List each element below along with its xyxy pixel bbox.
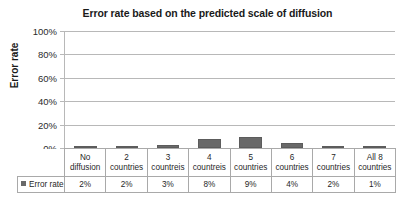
category-label-line: countries xyxy=(231,163,271,173)
table-header-cell: 6countries xyxy=(271,149,312,177)
table-row-categories: Nodiffusion2countries3countreis4countrei… xyxy=(18,149,396,177)
y-axis-tick xyxy=(60,125,64,126)
bars-layer xyxy=(65,31,395,148)
y-axis-tick xyxy=(60,101,64,102)
bar-slot xyxy=(230,31,271,148)
legend-swatch-icon xyxy=(21,181,26,186)
category-label-line: countries xyxy=(313,163,353,173)
page-title: Error rate based on the predicted scale … xyxy=(0,7,415,19)
y-axis-label: 80% xyxy=(38,49,57,60)
plot-area: 100%80%60%40%20%0% xyxy=(64,31,395,148)
y-axis-tick xyxy=(60,31,64,32)
table-header-cell: 2countries xyxy=(106,149,147,177)
table-value-cell: 4% xyxy=(271,177,312,193)
category-label-line: countreis xyxy=(148,163,188,173)
y-axis-tick xyxy=(60,54,64,55)
category-label-line: diffusion xyxy=(65,163,105,173)
bar xyxy=(239,137,261,148)
category-label-line: No xyxy=(65,153,105,163)
category-label-line: countreis xyxy=(189,163,229,173)
table-value-cell: 8% xyxy=(189,177,230,193)
bar xyxy=(198,139,220,148)
y-axis-label: 60% xyxy=(38,72,57,83)
category-label-line: 7 xyxy=(313,153,353,163)
table-header-cell: 4countreis xyxy=(189,149,230,177)
legend-entry: Error rate xyxy=(18,177,65,193)
table-row-values: Error rate 2%2%3%8%9%4%2%1% xyxy=(18,177,396,193)
bar-slot xyxy=(354,31,395,148)
y-axis-title: Error rate xyxy=(9,36,20,96)
category-label-line: 2 xyxy=(106,153,146,163)
bar-slot xyxy=(65,31,106,148)
bar-slot xyxy=(271,31,312,148)
category-label-line: All 8 xyxy=(355,153,395,163)
category-label-line: countries xyxy=(355,163,395,173)
bar-slot xyxy=(148,31,189,148)
y-axis-tick xyxy=(60,78,64,79)
table-corner-cell xyxy=(18,149,65,177)
table-value-cell: 2% xyxy=(106,177,147,193)
table-header-cell: All 8countries xyxy=(354,149,395,177)
table-header-cell: 7countries xyxy=(313,149,354,177)
table-value-cell: 1% xyxy=(354,177,395,193)
y-axis-label: 40% xyxy=(38,96,57,107)
table-value-cell: 3% xyxy=(147,177,188,193)
table-value-cell: 9% xyxy=(230,177,271,193)
bar-slot xyxy=(313,31,354,148)
category-label-line: 3 xyxy=(148,153,188,163)
chart-screenshot: Error rate based on the predicted scale … xyxy=(0,0,415,202)
table-value-cell: 2% xyxy=(313,177,354,193)
data-table: Nodiffusion2countries3countreis4countrei… xyxy=(17,148,396,193)
table-header-cell: 5countries xyxy=(230,149,271,177)
table-header-cell: Nodiffusion xyxy=(65,149,106,177)
legend-label: Error rate xyxy=(29,180,64,189)
category-label-line: countries xyxy=(272,163,312,173)
y-axis-label: 20% xyxy=(38,119,57,130)
category-label-line: countries xyxy=(106,163,146,173)
category-label-line: 4 xyxy=(189,153,229,163)
table-header-cell: 3countreis xyxy=(147,149,188,177)
table-value-cell: 2% xyxy=(65,177,106,193)
y-axis-label: 100% xyxy=(33,26,57,37)
category-label-line: 5 xyxy=(231,153,271,163)
category-label-line: 6 xyxy=(272,153,312,163)
bar-slot xyxy=(189,31,230,148)
bar-slot xyxy=(106,31,147,148)
